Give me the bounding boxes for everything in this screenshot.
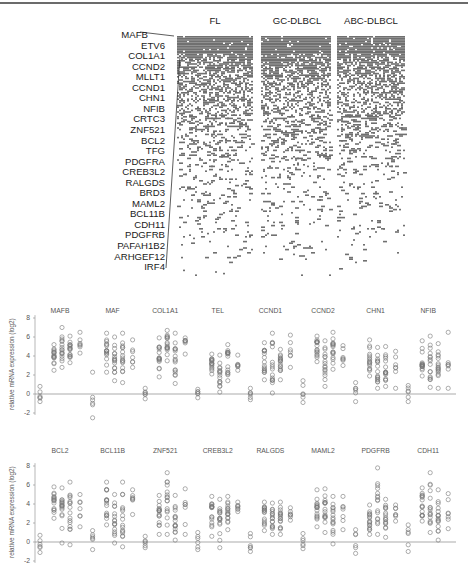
row-label-irf4: IRF4 [144, 261, 165, 272]
panel-gene-ralgds: RALGDS [256, 447, 284, 454]
panel-gene-bcl2: BCL2 [51, 447, 68, 454]
row-label-creb3l2: CREB3L2 [122, 166, 165, 177]
row-label-mllt1: MLLT1 [136, 71, 165, 82]
row-label-bcl11b: BCL11B [130, 208, 165, 219]
panel-1-ylabel: relative mRNA expression (log2) [8, 318, 15, 410]
row-label-znf521: ZNF521 [130, 124, 165, 135]
panel-2-ylabel: relative mRNA expression (log2) [8, 466, 15, 558]
panel-gene-nfib: NFIB [420, 307, 435, 314]
row-label-maml2: MAML2 [132, 198, 165, 209]
y-tick-label: 6 [20, 333, 30, 340]
group-title-abc-dlbcl: ABC-DLBCL [344, 15, 398, 26]
row-label-pdgfrb: PDGFRB [125, 229, 165, 240]
row-label-bcl2: BCL2 [141, 135, 165, 146]
panel-gene-creb3l2: CREB3L2 [203, 447, 233, 454]
panel-gene-tel: TEL [212, 307, 224, 314]
group-title-fl: FL [209, 15, 220, 26]
row-label-pafah1b2: PAFAH1B2 [117, 240, 165, 251]
row-label-ccnd2: CCND2 [132, 61, 165, 72]
y-tick-label: 2 [20, 371, 30, 378]
scatter-panel-2 [0, 440, 468, 567]
row-label-pdgfra: PDGFRA [125, 156, 165, 167]
row-label-col1a1: COL1A1 [128, 50, 165, 61]
row-label-arhgef12: ARHGEF12 [114, 251, 165, 262]
row-label-etv6: ETV6 [141, 40, 165, 51]
y-tick-label: 8 [20, 314, 30, 321]
y-tick-label: 4 [20, 352, 30, 359]
y-tick-label: -2 [20, 557, 30, 564]
panel-gene-pdgfrb: PDGFRB [361, 447, 389, 454]
panel-gene-ccnd2: CCND2 [311, 307, 334, 314]
y-tick-label: 6 [20, 481, 30, 488]
y-tick-label: 8 [20, 462, 30, 469]
row-label-nfib: NFIB [143, 103, 165, 114]
heatmap [0, 0, 468, 300]
panel-gene-bcl11b: BCL11B [100, 447, 125, 454]
panel-gene-ccnd1: CCND1 [259, 307, 282, 314]
panel-gene-maf: MAF [105, 307, 119, 314]
y-tick-label: -2 [20, 409, 30, 416]
row-label-brd3: BRD3 [139, 187, 165, 198]
row-label-cdh11: CDH11 [134, 219, 165, 230]
panel-gene-chn1: CHN1 [366, 307, 385, 314]
y-tick-label: 0 [20, 390, 30, 397]
y-tick-label: 4 [20, 500, 30, 507]
row-label-mafb: MAFB [121, 29, 148, 40]
row-label-chn1: CHN1 [139, 92, 165, 103]
row-label-crtc3: CRTC3 [133, 113, 165, 124]
row-label-ralgds: RALGDS [126, 177, 165, 188]
panel-gene-znf521: ZNF521 [153, 447, 178, 454]
panel-gene-col1a1: COL1A1 [152, 307, 178, 314]
group-title-gc-dlbcl: GC-DLBCL [273, 15, 322, 26]
panel-gene-maml2: MAML2 [311, 447, 334, 454]
y-tick-label: 0 [20, 538, 30, 545]
panel-gene-cdh11: CDH11 [417, 447, 439, 454]
row-label-ccnd1: CCND1 [132, 82, 165, 93]
scatter-panel-1 [0, 300, 468, 440]
y-tick-label: 2 [20, 519, 30, 526]
row-label-tfg: TFG [146, 145, 165, 156]
panel-gene-mafb: MAFB [51, 307, 70, 314]
